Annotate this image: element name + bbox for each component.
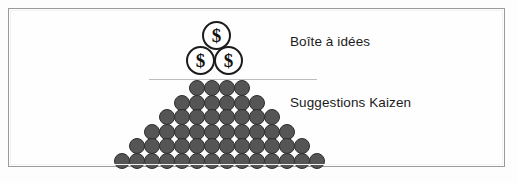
figure-canvas: $ $ $ Boîte à idées Suggestions Kaizen [0, 0, 517, 183]
suggestion-dot [129, 153, 145, 169]
suggestion-dot [279, 153, 295, 169]
dollar-coin-icon: $ [186, 46, 215, 75]
suggestion-dot [114, 153, 130, 169]
suggestion-dot [144, 153, 160, 169]
suggestion-dot [264, 153, 280, 169]
dot-pyramid [104, 80, 334, 172]
suggestion-dot [159, 153, 175, 169]
coin-stack: $ $ $ [181, 21, 253, 79]
suggestion-dot [189, 153, 205, 169]
suggestion-dot [234, 153, 250, 169]
suggestion-dot [249, 153, 265, 169]
suggestion-dot [309, 153, 325, 169]
label-idea-box: Boîte à idées [290, 34, 370, 49]
suggestion-dot [219, 153, 235, 169]
suggestion-dot [174, 153, 190, 169]
dollar-coin-icon: $ [214, 46, 243, 75]
figure-border: $ $ $ Boîte à idées Suggestions Kaizen [8, 8, 505, 167]
dot-pyramid-row [114, 153, 325, 170]
suggestion-dot [294, 153, 310, 169]
suggestion-dot [204, 153, 220, 169]
